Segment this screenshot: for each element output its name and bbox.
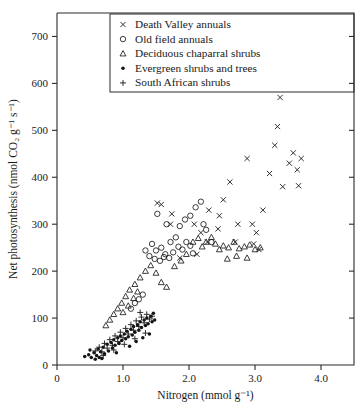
data-point-cross: [267, 171, 272, 176]
data-point-triangle: [111, 311, 117, 316]
data-point-circle: [180, 247, 185, 252]
data-point-cross: [244, 156, 249, 161]
data-point-circle: [203, 227, 208, 232]
data-point-triangle: [216, 246, 222, 251]
y-tick-label: 500: [32, 124, 49, 136]
x-tick-label: 4.0: [314, 372, 328, 384]
legend-label-3: Evergreen shrubs and trees: [135, 62, 257, 74]
data-point-cross: [287, 161, 292, 166]
scatter-plot-figure: 010020030040050060070001.02.03.04.0Nitro…: [0, 0, 364, 413]
data-point-cross: [159, 202, 164, 207]
data-point-dot: [121, 67, 125, 71]
data-point-triangle: [234, 253, 240, 258]
data-point-triangle: [195, 235, 201, 240]
data-point-triangle: [119, 300, 125, 305]
data-point-dot: [90, 356, 94, 360]
x-axis-title: Nitrogen (mmol g⁻¹): [157, 389, 253, 402]
data-point-triangle: [220, 243, 226, 248]
data-point-triangle: [132, 281, 138, 286]
data-point-triangle: [127, 287, 133, 292]
data-point-cross: [254, 230, 259, 235]
data-point-triangle: [208, 234, 214, 239]
data-point-cross: [192, 222, 197, 227]
y-tick-label: 400: [32, 171, 49, 183]
legend-label-0: Death Valley annuals: [135, 18, 231, 30]
data-point-circle: [176, 244, 181, 249]
data-point-triangle: [153, 270, 159, 275]
data-point-circle: [170, 250, 175, 255]
data-point-circle: [167, 255, 172, 260]
data-point-dot: [88, 348, 92, 352]
legend-label-4: South African shrubs: [135, 76, 230, 88]
data-point-cross: [120, 22, 125, 27]
data-point-circle: [153, 248, 158, 253]
data-point-triangle: [120, 309, 126, 314]
data-point-circle: [188, 213, 193, 218]
data-point-cross: [198, 230, 203, 235]
data-point-dot: [141, 336, 145, 340]
plot-svg: 010020030040050060070001.02.03.04.0Nitro…: [0, 0, 364, 413]
data-point-cross: [275, 124, 280, 129]
data-point-cross: [296, 183, 301, 188]
data-point-circle: [164, 222, 169, 227]
y-tick-label: 700: [32, 30, 49, 42]
data-point-circle: [173, 235, 178, 240]
data-point-plus: [137, 309, 143, 315]
data-point-circle: [155, 211, 160, 216]
data-point-triangle: [244, 255, 250, 260]
data-point-cross: [277, 95, 282, 100]
data-point-circle: [159, 245, 164, 250]
data-point-dot: [153, 318, 157, 322]
y-tick-label: 600: [32, 77, 49, 89]
data-point-triangle: [257, 245, 263, 250]
y-axis-title: Net photosynthesis (nmol CO₂ g⁻¹ s⁻¹): [7, 99, 20, 279]
data-point-cross: [235, 222, 240, 227]
data-point-triangle: [103, 322, 109, 327]
y-tick-label: 100: [32, 312, 49, 324]
data-point-triangle: [148, 262, 154, 267]
data-point-triangle: [190, 239, 196, 244]
data-point-triangle: [120, 51, 126, 56]
data-point-circle: [168, 239, 173, 244]
data-point-triangle: [158, 279, 164, 284]
data-point-plus: [133, 318, 139, 324]
data-point-cross: [299, 156, 304, 161]
data-point-circle: [120, 36, 125, 41]
data-point-dot: [83, 355, 87, 359]
data-point-circle: [201, 222, 206, 227]
data-point-triangle: [131, 295, 137, 300]
data-point-circle: [152, 256, 157, 261]
data-point-circle: [198, 199, 203, 204]
data-point-triangle: [172, 263, 178, 268]
data-point-triangle: [115, 306, 121, 311]
data-point-triangle: [224, 256, 230, 261]
legend-label-1: Old field annuals: [135, 33, 213, 45]
data-point-cross: [217, 213, 222, 218]
x-tick-label: 2.0: [182, 372, 196, 384]
data-point-triangle: [135, 289, 141, 294]
data-point-circle: [149, 241, 154, 246]
legend-label-2: Deciduous chaparral shrubs: [135, 47, 260, 59]
data-point-circle: [177, 223, 182, 228]
y-tick-label: 0: [43, 359, 49, 371]
data-point-cross: [291, 150, 296, 155]
data-point-plus: [117, 329, 123, 335]
data-point-cross: [260, 208, 265, 213]
data-point-cross: [215, 226, 220, 231]
data-point-plus: [120, 80, 126, 86]
data-point-circle: [182, 217, 187, 222]
x-tick-label: 0: [54, 372, 60, 384]
data-point-circle: [132, 300, 137, 305]
data-point-cross: [250, 222, 255, 227]
data-point-cross: [169, 211, 174, 216]
y-tick-label: 300: [32, 218, 49, 230]
y-tick-label: 200: [32, 265, 49, 277]
data-point-circle: [143, 248, 148, 253]
x-tick-label: 3.0: [248, 372, 262, 384]
data-point-triangle: [137, 275, 143, 280]
x-tick-label: 1.0: [116, 372, 130, 384]
data-point-cross: [227, 179, 232, 184]
data-point-circle: [140, 292, 145, 297]
data-point-plus: [144, 311, 150, 317]
data-point-cross: [295, 167, 300, 172]
